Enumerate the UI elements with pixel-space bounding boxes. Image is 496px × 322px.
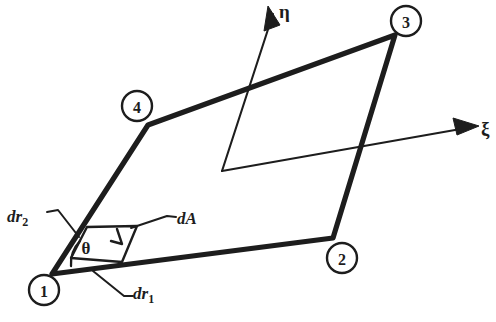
dr2-label-subscript: 2 (22, 215, 28, 229)
dr2-label-base: dr (7, 207, 23, 226)
dr1-label: dr1 (133, 284, 154, 306)
quadrilateral-element-diagram: 1 2 3 4 η ξ θ dr1 dr2 (0, 0, 496, 322)
node-marker-3[interactable]: 3 (391, 6, 421, 36)
node-label-2: 2 (338, 251, 346, 268)
node-marker-4[interactable]: 4 (122, 91, 152, 121)
node-label-4: 4 (133, 99, 141, 116)
dr2-label: dr2 (7, 207, 28, 229)
dA-label: dA (177, 209, 197, 228)
xi-axis-line (222, 127, 472, 171)
xi-axis-label: ξ (481, 118, 490, 140)
node-marker-1[interactable]: 1 (29, 275, 59, 305)
figure-canvas: 1 2 3 4 η ξ θ dr1 dr2 (0, 0, 496, 322)
dr1-label-subscript: 1 (148, 292, 154, 306)
dr2-leader-line (47, 210, 79, 237)
eta-axis-label: η (279, 1, 290, 22)
text-labels-group: η ξ θ dr1 dr2 dA (7, 1, 490, 306)
dA-leader-line (131, 216, 176, 228)
dr1-label-base: dr (133, 284, 149, 303)
axes-group (222, 6, 479, 171)
quadrilateral-edges (52, 35, 395, 274)
dr1-leader-line (93, 271, 133, 296)
dA-corner-tick (111, 229, 122, 244)
node-label-1: 1 (40, 283, 48, 300)
node-label-3: 3 (402, 14, 410, 31)
xi-axis-arrowhead (453, 118, 479, 135)
theta-label: θ (82, 239, 91, 258)
element-outline-group (52, 35, 395, 274)
eta-axis-arrowhead (264, 6, 280, 31)
node-marker-2[interactable]: 2 (327, 243, 357, 273)
